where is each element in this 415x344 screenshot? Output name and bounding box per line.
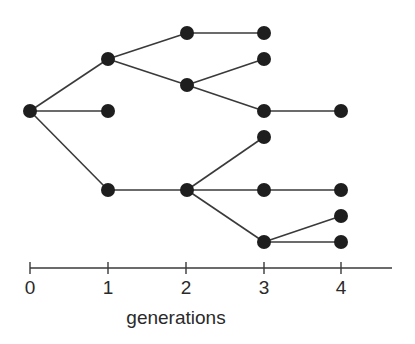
axis-tick-label: 0	[25, 277, 36, 298]
tree-node	[101, 183, 115, 197]
tree-nodes	[23, 26, 348, 249]
tree-node	[334, 104, 348, 118]
axis-tick-label: 3	[259, 277, 270, 298]
axis-tick-label: 4	[336, 277, 347, 298]
tree-edge	[187, 85, 264, 111]
tree-node	[180, 26, 194, 40]
tree-node	[334, 209, 348, 223]
tree-node	[23, 104, 37, 118]
tree-edge	[30, 111, 108, 190]
tree-node	[257, 183, 271, 197]
tree-edge	[187, 59, 264, 85]
tree-node	[334, 235, 348, 249]
tree-node	[101, 52, 115, 66]
tree-node	[257, 52, 271, 66]
tree-edge	[187, 190, 264, 242]
tree-node	[180, 78, 194, 92]
tree-node	[101, 104, 115, 118]
axis-tick-label: 1	[103, 277, 114, 298]
tree-node	[334, 183, 348, 197]
tree-node	[257, 235, 271, 249]
axis-title: generations	[126, 307, 225, 328]
tree-node	[257, 130, 271, 144]
tree-node	[180, 183, 194, 197]
tree-edge	[108, 59, 187, 85]
tree-edge	[264, 216, 341, 242]
tree-node	[257, 104, 271, 118]
tree-edge	[187, 137, 264, 190]
tree-node	[257, 26, 271, 40]
tree-edges	[30, 33, 341, 242]
tree-edge	[108, 33, 187, 59]
tree-edge	[30, 59, 108, 111]
generations-axis: 01234 generations	[25, 262, 392, 328]
axis-tick-label: 2	[181, 277, 192, 298]
generation-tree-diagram: 01234 generations	[0, 0, 415, 344]
